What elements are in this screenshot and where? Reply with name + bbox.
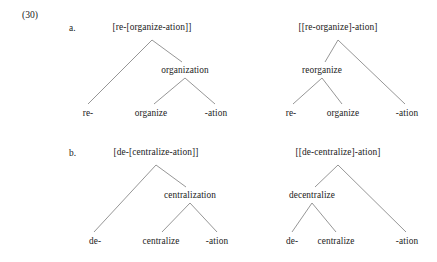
tree-a-right-leaf-stem: organize — [327, 109, 360, 118]
branch-a-left-root-to-re — [88, 40, 152, 104]
branch-a-right-mid-to-organize — [322, 78, 342, 104]
morphology-tree-figure: (30) a. [re-[organize-ation]] organizati… — [0, 0, 437, 262]
tree-b-left-leaf-stem: centralize — [142, 237, 179, 246]
branch-b-right-root-to-ation — [338, 165, 406, 232]
tree-b-left-root-label: [de-[centralize-ation]] — [113, 148, 198, 157]
branch-b-right-root-to-mid — [315, 165, 338, 187]
branch-a-right-root-to-mid — [325, 40, 338, 62]
branch-a-left-mid-to-ation — [185, 78, 215, 104]
tree-b-left-leaf-prefix: de- — [89, 237, 101, 246]
tree-b-right-mid-node: decentralize — [289, 191, 335, 200]
row-marker-b: b. — [69, 149, 76, 158]
tree-b-right-leaf-stem: centralize — [317, 237, 354, 246]
branch-a-right-mid-to-re — [293, 78, 322, 104]
tree-a-left-mid-node: organization — [161, 66, 209, 75]
branch-b-left-root-to-mid — [156, 165, 186, 187]
tree-a-left-leaf-prefix: re- — [83, 109, 94, 118]
tree-a-left-root-label: [re-[organize-ation]] — [113, 23, 192, 32]
tree-a-right-mid-node: reorganize — [302, 66, 342, 75]
branch-b-right-mid-to-de — [292, 203, 312, 232]
tree-a-right-leaf-prefix: re- — [286, 109, 297, 118]
tree-b-left-mid-node: centralization — [164, 191, 216, 200]
example-number: (30) — [22, 10, 38, 20]
branch-b-left-mid-to-centralize — [162, 203, 190, 232]
branch-a-right-root-to-ation — [338, 40, 405, 104]
tree-branch-lines — [0, 0, 437, 262]
tree-a-left-leaf-stem: organize — [135, 109, 168, 118]
tree-a-right-leaf-suffix: -ation — [396, 109, 418, 118]
branch-b-left-mid-to-ation — [190, 203, 217, 232]
branch-a-left-mid-to-organize — [154, 78, 185, 104]
tree-b-right-root-label: [[de-centralize]-ation] — [295, 148, 380, 157]
tree-a-left-leaf-suffix: -ation — [205, 109, 227, 118]
row-marker-a: a. — [69, 24, 76, 33]
tree-b-right-leaf-suffix: -ation — [396, 237, 418, 246]
tree-b-right-leaf-prefix: de- — [286, 237, 298, 246]
branch-b-right-mid-to-centralize — [312, 203, 336, 232]
tree-a-right-root-label: [[re-organize]-ation] — [299, 23, 378, 32]
tree-b-left-leaf-suffix: -ation — [206, 237, 228, 246]
branch-a-left-root-to-mid — [152, 40, 182, 62]
branch-b-left-root-to-de — [94, 165, 156, 232]
